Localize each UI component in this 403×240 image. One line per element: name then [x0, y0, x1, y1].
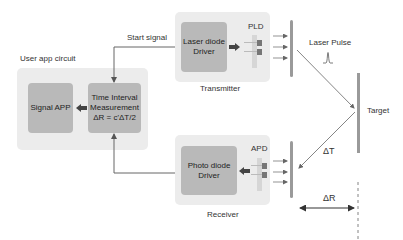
delta-t-label: ΔT	[323, 146, 335, 156]
target-label: Target	[367, 106, 389, 115]
laser-driver-line1: Laser diode	[183, 37, 225, 47]
tim-label-line2: Measurement	[90, 103, 139, 113]
tim-formula: ΔR = c'ΔT/2	[93, 113, 136, 123]
user-app-circuit-title: User app circuit	[20, 54, 76, 63]
photo-driver-line2: Driver	[198, 171, 219, 181]
transmitter-title: Transmitter	[200, 84, 240, 93]
pld-label: PLD	[248, 22, 264, 31]
signal-app-block: Signal APP	[28, 83, 73, 133]
delta-r-label: ΔR	[323, 193, 336, 203]
signal-app-label: Signal APP	[30, 103, 70, 113]
photo-diode-driver-block: Photo diode Driver	[181, 146, 237, 195]
laser-pulse-label: Laser Pulse	[309, 38, 351, 47]
laser-diode-driver-block: Laser diode Driver	[181, 22, 227, 72]
laser-driver-line2: Driver	[193, 47, 214, 57]
apd-label: APD	[251, 144, 267, 153]
photo-driver-line1: Photo diode	[188, 161, 231, 171]
receiver-title: Receiver	[207, 210, 239, 219]
time-interval-measurement-block: Time Interval Measurement ΔR = c'ΔT/2	[88, 83, 141, 133]
tim-label-line1: Time Interval	[92, 93, 138, 103]
start-signal-label: Start signal	[127, 33, 167, 42]
